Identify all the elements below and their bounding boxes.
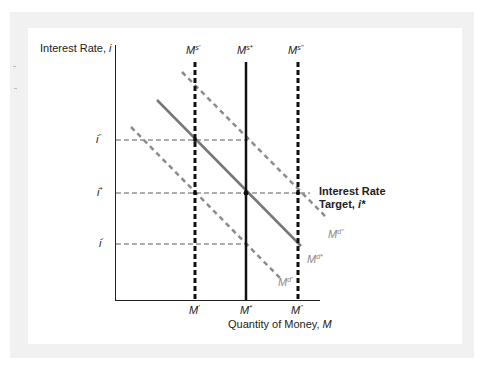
label-md-star: Md* bbox=[307, 253, 323, 265]
equilibrium-point bbox=[296, 191, 300, 195]
tick-i-star: i* bbox=[97, 186, 102, 198]
label-md-high: Md'' bbox=[328, 228, 344, 240]
tick-m-high: M'' bbox=[291, 304, 303, 316]
tick-i-low: i' bbox=[99, 237, 103, 249]
equilibrium-point bbox=[193, 138, 197, 142]
label-ms-star: Ms* bbox=[237, 44, 252, 56]
tick-m-low: M' bbox=[189, 304, 200, 316]
demand-curve-md-high bbox=[182, 72, 327, 218]
tick-m-star: M* bbox=[240, 304, 252, 316]
label-ms-high: Ms'' bbox=[288, 44, 303, 56]
tick-i-high: i'' bbox=[96, 133, 101, 145]
label-md-low: Md' bbox=[278, 276, 292, 288]
x-axis-label: Quantity of Money, M bbox=[228, 318, 332, 330]
equilibrium-point bbox=[244, 191, 249, 196]
demand-curve-md-star bbox=[157, 100, 301, 246]
label-ms-low: Ms' bbox=[186, 44, 200, 56]
y-axis-label: Interest Rate, i bbox=[40, 42, 112, 54]
equilibrium-point bbox=[193, 191, 197, 195]
interest-rate-target-annotation: Interest Rate Target, i* bbox=[319, 185, 386, 211]
